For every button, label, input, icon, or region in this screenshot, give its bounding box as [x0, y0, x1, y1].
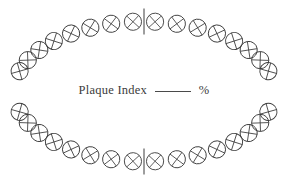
- tooth[interactable]: [146, 152, 164, 170]
- tooth[interactable]: [206, 23, 228, 45]
- tooth[interactable]: [80, 17, 101, 38]
- tooth-cross-stroke: [209, 142, 225, 158]
- tooth-cross-stroke: [226, 134, 242, 150]
- tooth[interactable]: [206, 138, 228, 160]
- tooth-cross-stroke: [46, 134, 62, 150]
- tooth[interactable]: [223, 130, 246, 153]
- tooth-cross-stroke: [46, 33, 62, 49]
- tooth[interactable]: [60, 138, 82, 160]
- plaque-index-blank-field[interactable]: [155, 81, 191, 92]
- tooth-cross-stroke: [63, 142, 79, 158]
- tooth[interactable]: [187, 17, 208, 38]
- tooth-cross-stroke: [83, 20, 98, 35]
- percent-symbol: %: [199, 83, 210, 97]
- tooth-cross-stroke: [190, 148, 205, 163]
- plaque-index-label: Plaque Index %: [0, 81, 288, 98]
- tooth[interactable]: [146, 13, 164, 31]
- tooth[interactable]: [101, 150, 120, 169]
- tooth[interactable]: [167, 150, 186, 169]
- tooth-cross-stroke: [209, 26, 225, 42]
- tooth[interactable]: [223, 29, 246, 52]
- tooth[interactable]: [42, 29, 65, 52]
- tooth[interactable]: [42, 130, 65, 153]
- tooth[interactable]: [60, 23, 82, 45]
- tooth[interactable]: [27, 121, 51, 145]
- tooth[interactable]: [237, 38, 261, 62]
- tooth-cross-stroke: [104, 17, 118, 31]
- tooth-cross-stroke: [104, 152, 118, 166]
- tooth-cross-stroke: [63, 26, 79, 42]
- tooth[interactable]: [237, 121, 261, 145]
- tooth[interactable]: [27, 38, 51, 62]
- tooth-cross-stroke: [226, 33, 242, 49]
- tooth-cross-stroke: [170, 17, 184, 31]
- tooth[interactable]: [167, 14, 186, 33]
- tooth-cross-stroke: [190, 20, 205, 35]
- plaque-index-text: Plaque Index: [78, 83, 147, 97]
- tooth[interactable]: [124, 13, 142, 31]
- tooth[interactable]: [187, 145, 208, 166]
- tooth[interactable]: [124, 152, 142, 170]
- tooth-cross-stroke: [170, 152, 184, 166]
- plaque-index-chart: Plaque Index %: [0, 0, 288, 193]
- tooth[interactable]: [80, 145, 101, 166]
- tooth-cross-stroke: [83, 148, 98, 163]
- tooth[interactable]: [101, 14, 120, 33]
